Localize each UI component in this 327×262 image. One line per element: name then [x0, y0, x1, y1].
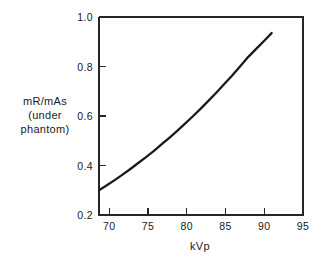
y-tick-label-0.6: 0.6: [77, 110, 93, 122]
x-tick-marks: [109, 208, 303, 215]
x-axis-title: kVp: [190, 240, 210, 252]
y-axis-title-line-1: mR/mAs: [23, 95, 67, 107]
chart-plot-area: 1.0 0.8 0.6 0.4 0.2 70 75 80 85 90 95 kV…: [0, 0, 327, 262]
chart-figure: 1.0 0.8 0.6 0.4 0.2 70 75 80 85 90 95 kV…: [0, 0, 327, 262]
x-tick-label-70: 70: [103, 220, 115, 232]
data-series-curve: [99, 33, 272, 190]
y-axis-title-line-3: phantom): [21, 123, 70, 135]
y-axis-title: mR/mAs (under phantom): [21, 95, 70, 135]
x-tick-label-85: 85: [219, 220, 231, 232]
x-tick-label-75: 75: [142, 220, 154, 232]
y-axis-title-line-2: (under: [28, 109, 62, 121]
y-tick-label-0.2: 0.2: [77, 209, 93, 221]
y-tick-label-0.8: 0.8: [77, 61, 93, 73]
x-tick-label-90: 90: [258, 220, 270, 232]
y-tick-label-0.4: 0.4: [77, 160, 93, 172]
axis-frame: [99, 17, 303, 215]
y-tick-labels: 1.0 0.8 0.6 0.4 0.2: [77, 11, 93, 221]
x-tick-label-95: 95: [297, 220, 309, 232]
y-tick-label-1.0: 1.0: [77, 11, 93, 23]
x-tick-labels: 70 75 80 85 90 95: [103, 220, 309, 232]
x-tick-label-80: 80: [181, 220, 193, 232]
